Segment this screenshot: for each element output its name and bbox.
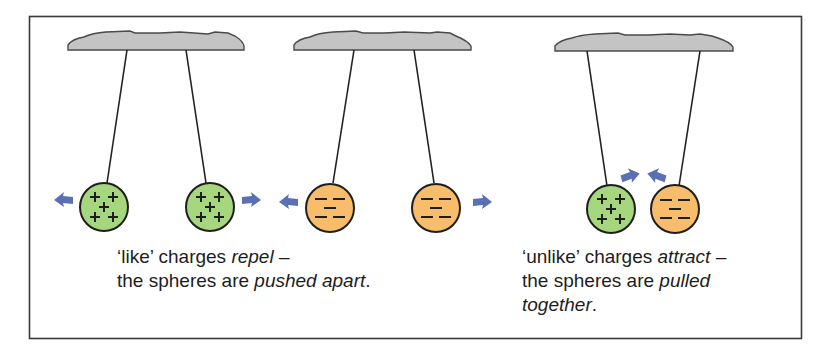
caption-text: the spheres are: [522, 270, 659, 291]
attract-arrow-left-icon: [646, 166, 668, 185]
caption-text: ‘like’ charges: [117, 246, 231, 267]
string: [587, 51, 607, 186]
ceiling-support: [294, 31, 471, 50]
caption-line: ‘unlike’ charges attract –: [522, 245, 726, 269]
caption-text: .: [365, 270, 370, 291]
string: [107, 50, 127, 183]
caption-line: ‘like’ charges repel –: [117, 245, 371, 269]
panel-unlike: [555, 33, 733, 233]
string: [333, 50, 354, 183]
caption-emphasis: pulled: [659, 270, 710, 291]
caption-emphasis: together: [522, 294, 592, 315]
caption-unlike-charges: ‘unlike’ charges attract – the spheres a…: [522, 245, 726, 317]
ceiling-support: [68, 31, 244, 50]
attract-arrow-right-icon: [619, 166, 641, 185]
string: [414, 50, 434, 183]
caption-emphasis: attract: [658, 246, 711, 267]
caption-like-charges: ‘like’ charges repel – the spheres are p…: [117, 245, 371, 293]
caption-emphasis: pushed apart: [254, 270, 365, 291]
repel-arrow-right-icon: [242, 192, 261, 207]
panel-like-negative: [279, 31, 492, 232]
caption-text: the spheres are: [117, 270, 254, 291]
caption-line: together.: [522, 293, 726, 317]
caption-text: –: [274, 246, 290, 267]
caption-text: –: [710, 246, 726, 267]
string: [679, 51, 700, 186]
caption-line: the spheres are pulled: [522, 269, 726, 293]
string: [186, 50, 206, 183]
caption-line: the spheres are pushed apart.: [117, 269, 371, 293]
repel-arrow-left-icon: [54, 192, 73, 207]
repel-arrow-left-icon: [279, 194, 298, 209]
ceiling-support: [555, 33, 733, 51]
repel-arrow-right-icon: [473, 194, 492, 209]
panel-like-positive: [54, 31, 261, 231]
caption-text: .: [592, 294, 597, 315]
caption-emphasis: repel: [231, 246, 273, 267]
caption-text: ‘unlike’ charges: [522, 246, 658, 267]
